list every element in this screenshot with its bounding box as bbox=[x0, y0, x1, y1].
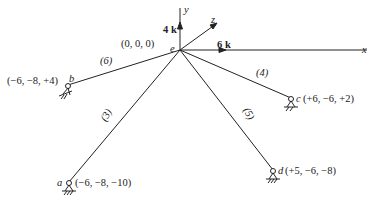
member-3-label: (3) bbox=[98, 106, 115, 123]
node-d-pin bbox=[271, 169, 276, 174]
node-e-label: e bbox=[170, 43, 175, 54]
diagram-svg: y z x 4 k 6 k (0, 0, 0) e (−6, −8, +4) b… bbox=[0, 0, 367, 205]
member-4-label: (4) bbox=[256, 67, 269, 79]
member-5-label: (5) bbox=[240, 106, 257, 123]
node-d-coords: (+5, −6, −8) bbox=[285, 165, 337, 177]
node-a-label: a bbox=[57, 177, 62, 188]
node-c-label: c bbox=[296, 93, 301, 104]
node-c-coords: (+6, −6, +2) bbox=[303, 93, 355, 105]
node-c-pin bbox=[289, 97, 294, 102]
support-b-icon bbox=[59, 88, 72, 99]
load-4k-label: 4 k bbox=[163, 24, 177, 35]
load-arrow-4k-icon bbox=[178, 22, 183, 29]
node-a-coords: (−6, −8, −10) bbox=[75, 177, 132, 189]
support-a-icon bbox=[62, 185, 76, 195]
y-axis-label: y bbox=[183, 4, 189, 15]
z-axis bbox=[180, 24, 216, 50]
origin-coords: (0, 0, 0) bbox=[121, 38, 155, 50]
node-a-pin bbox=[67, 181, 72, 186]
member-e-c bbox=[180, 50, 291, 98]
member-6-label: (6) bbox=[100, 55, 113, 67]
node-d-label: d bbox=[278, 165, 284, 176]
load-6k-label: 6 k bbox=[217, 39, 231, 50]
node-b-label: b bbox=[69, 73, 74, 84]
node-b-coords: (−6, −8, +4) bbox=[7, 75, 59, 87]
x-axis-label: x bbox=[361, 44, 367, 55]
node-b-pin bbox=[66, 84, 71, 89]
member-e-a bbox=[69, 50, 180, 182]
z-axis-label: z bbox=[210, 14, 215, 25]
space-truss-diagram: y z x 4 k 6 k (0, 0, 0) e (−6, −8, +4) b… bbox=[0, 0, 367, 205]
member-e-b bbox=[68, 50, 180, 85]
